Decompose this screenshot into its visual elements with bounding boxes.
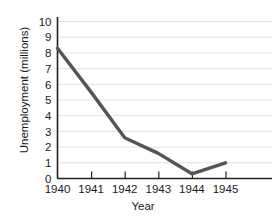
- y-axis-tick-label: 4: [45, 110, 52, 122]
- y-axis-tick-label: 8: [45, 47, 51, 59]
- y-axis-tick-label: 2: [45, 141, 51, 153]
- y-axis-tick-label: 7: [45, 63, 51, 75]
- y-axis-tick-label: 6: [45, 79, 51, 91]
- x-axis-tick-label: 1941: [78, 183, 104, 195]
- y-axis-tick-label: 10: [39, 16, 52, 28]
- data-series-line: [58, 48, 226, 174]
- unemployment-line-chart: Unemployment (millions) Year 01234567891…: [0, 0, 277, 222]
- y-axis-tick-label: 1: [45, 157, 51, 169]
- x-axis-tick-label: 1942: [112, 183, 138, 195]
- x-axis-tick-label: 1940: [45, 183, 71, 195]
- x-axis-tick-labels: 194019411942194319441945: [45, 183, 239, 195]
- x-axis-tick-marks: [92, 172, 226, 179]
- y-axis-tick-label: 9: [45, 31, 51, 43]
- y-axis-tick-label: 3: [45, 126, 51, 138]
- x-axis-tick-label: 1944: [179, 183, 205, 195]
- y-axis-tick-labels: 012345678910: [39, 16, 52, 185]
- y-axis-tick-label: 5: [45, 94, 51, 106]
- x-axis-tick-label: 1945: [213, 183, 239, 195]
- x-axis-tick-label: 1943: [146, 183, 172, 195]
- plot-area: 012345678910 194019411942194319441945: [0, 0, 277, 222]
